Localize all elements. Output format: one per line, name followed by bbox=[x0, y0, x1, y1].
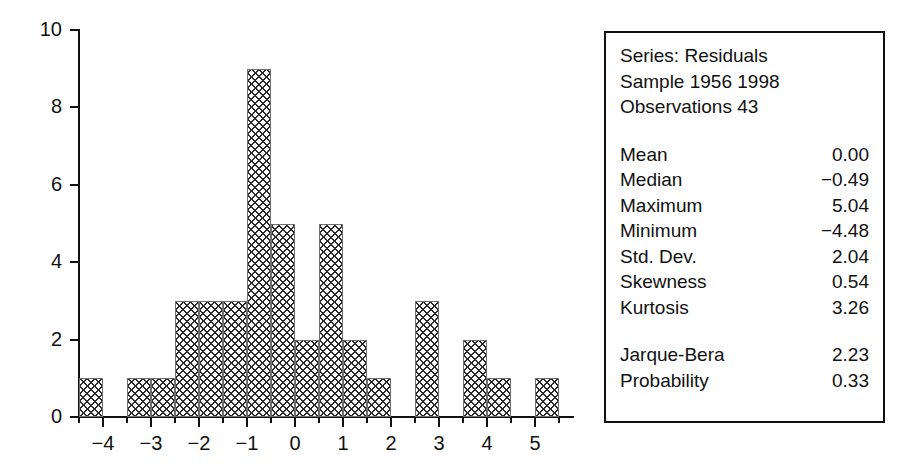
stat-value: −0.49 bbox=[821, 167, 869, 193]
statistic-row: Mean0.00 bbox=[620, 142, 869, 168]
histogram-bar bbox=[223, 301, 247, 417]
stat-label: Skewness bbox=[620, 269, 707, 295]
series-line: Series: Residuals bbox=[620, 43, 869, 69]
histogram-bar bbox=[175, 301, 199, 417]
histogram-figure: 0246810 −4−3−2−1012345 Series: Residuals… bbox=[0, 0, 909, 468]
sample-line: Sample 1956 1998 bbox=[620, 69, 869, 95]
histogram-bar bbox=[271, 224, 295, 418]
statistic-row: Minimum−4.48 bbox=[620, 218, 869, 244]
stat-label: Mean bbox=[620, 142, 668, 168]
histogram-bar bbox=[127, 378, 151, 417]
stat-value: 2.23 bbox=[832, 342, 869, 368]
stat-label: Minimum bbox=[620, 218, 697, 244]
stat-label: Probability bbox=[620, 368, 709, 394]
descriptive-statistics-list: Mean0.00Median−0.49Maximum5.04Minimum−4.… bbox=[620, 142, 869, 321]
histogram-bar bbox=[535, 378, 559, 417]
observations-line: Observations 43 bbox=[620, 94, 869, 120]
histogram-bar bbox=[151, 378, 175, 417]
stat-value: 0.54 bbox=[832, 269, 869, 295]
histogram-bar bbox=[487, 378, 511, 417]
stat-label: Std. Dev. bbox=[620, 244, 697, 270]
normality-test-list: Jarque-Bera2.23Probability0.33 bbox=[620, 342, 869, 393]
histogram-bar bbox=[463, 340, 487, 417]
stat-value: 0.00 bbox=[832, 142, 869, 168]
statistic-row: Kurtosis3.26 bbox=[620, 295, 869, 321]
stat-value: 0.33 bbox=[832, 368, 869, 394]
histogram-bar bbox=[79, 378, 103, 417]
histogram-bar bbox=[343, 340, 367, 417]
stats-spacer-bottom bbox=[620, 320, 869, 342]
statistic-row: Median−0.49 bbox=[620, 167, 869, 193]
histogram-bar bbox=[367, 378, 391, 417]
histogram-bar bbox=[415, 301, 439, 417]
statistics-summary-box: Series: Residuals Sample 1956 1998 Obser… bbox=[604, 31, 885, 423]
histogram-bar bbox=[295, 340, 319, 417]
stats-spacer-top bbox=[620, 120, 869, 142]
histogram-bar bbox=[319, 224, 343, 418]
histogram-bar bbox=[247, 69, 271, 417]
stat-label: Jarque-Bera bbox=[620, 342, 725, 368]
histogram-bar bbox=[199, 301, 223, 417]
statistic-row: Maximum5.04 bbox=[620, 193, 869, 219]
stat-label: Maximum bbox=[620, 193, 702, 219]
stat-label: Median bbox=[620, 167, 682, 193]
stat-value: 3.26 bbox=[832, 295, 869, 321]
stat-label: Kurtosis bbox=[620, 295, 689, 321]
stat-value: −4.48 bbox=[821, 218, 869, 244]
histogram-bars bbox=[0, 0, 580, 468]
statistic-row: Skewness0.54 bbox=[620, 269, 869, 295]
stat-value: 5.04 bbox=[832, 193, 869, 219]
test-statistic-row: Jarque-Bera2.23 bbox=[620, 342, 869, 368]
stat-value: 2.04 bbox=[832, 244, 869, 270]
statistic-row: Std. Dev.2.04 bbox=[620, 244, 869, 270]
test-statistic-row: Probability0.33 bbox=[620, 368, 869, 394]
histogram-plot-area: 0246810 −4−3−2−1012345 bbox=[0, 0, 580, 468]
